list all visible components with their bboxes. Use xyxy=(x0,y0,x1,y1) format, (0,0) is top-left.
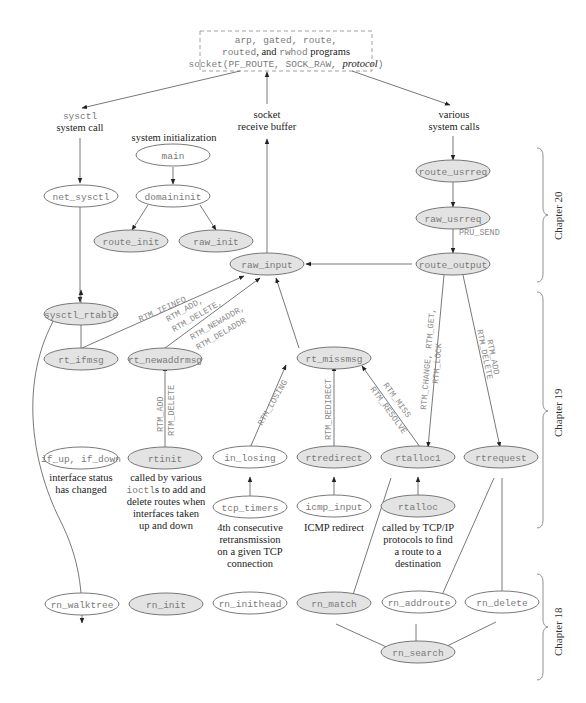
node-label: rn_walktree xyxy=(51,600,114,611)
node-raw-input[interactable]: raw_input xyxy=(230,253,304,275)
node-label: rn_match xyxy=(311,599,357,610)
node-label: icmp_input xyxy=(305,502,362,513)
node-rtalloc[interactable]: rtalloc xyxy=(381,495,455,517)
node-route-output[interactable]: route_output xyxy=(416,253,490,275)
node-label: raw_init xyxy=(193,237,239,248)
socket-call-close: ) xyxy=(378,59,384,70)
chapter-20-brace: Chapter 20 xyxy=(537,148,564,282)
node-tcp-timers[interactable]: tcp_timers xyxy=(213,496,287,518)
rtalloc-note-3: a route to a xyxy=(395,546,442,557)
node-label: rtredirect xyxy=(305,453,362,464)
programs-label: programs xyxy=(308,46,350,57)
node-rn-search[interactable]: rn_search xyxy=(381,641,455,663)
system-call-label: system call xyxy=(57,122,104,133)
node-rtinit[interactable]: rtinit xyxy=(128,447,202,469)
node-label: domaininit xyxy=(144,192,201,203)
system-initialization-label: system initialization xyxy=(132,132,218,143)
node-rn-match[interactable]: rn_match xyxy=(297,592,371,614)
node-sysctl-rtable[interactable]: sysctl_rtable xyxy=(44,303,118,325)
node-label: in_losing xyxy=(224,453,275,464)
node-label: rn_init xyxy=(146,600,186,611)
tcp-note-3: on a given TCP xyxy=(217,546,283,557)
node-main[interactable]: main xyxy=(136,144,210,166)
rtinit-note-5: up and down xyxy=(139,520,194,531)
node-rtredirect[interactable]: rtredirect xyxy=(297,446,371,468)
node-net-sysctl[interactable]: net_sysctl xyxy=(44,185,118,207)
receive-buffer-label: receive buffer xyxy=(238,121,297,132)
system-calls-label: system calls xyxy=(428,121,479,132)
node-route-init[interactable]: route_init xyxy=(94,230,168,252)
node-label: sysctl_rtable xyxy=(44,310,118,321)
node-rn-walktree[interactable]: rn_walktree xyxy=(45,593,119,615)
node-in-losing[interactable]: in_losing xyxy=(213,446,287,468)
has-changed-note: has changed xyxy=(55,484,107,495)
node-rt-missmsg[interactable]: rt_missmsg xyxy=(297,347,371,369)
rtinit-note-1: called by various xyxy=(130,472,202,483)
node-rn-delete[interactable]: rn_delete xyxy=(465,591,539,613)
various-label: various xyxy=(439,109,470,120)
node-label: main xyxy=(162,151,185,162)
node-label: rn_delete xyxy=(476,598,528,609)
node-rn-inithead[interactable]: rn_inithead xyxy=(213,592,287,614)
node-icmp-input[interactable]: icmp_input xyxy=(297,495,371,517)
sysctl-label: sysctl xyxy=(63,111,98,122)
programs-line-1: arp, gated, route, xyxy=(235,35,338,46)
node-label: rt_missmsg xyxy=(305,354,362,365)
socket-call-label: socket(PF_ROUTE, SOCK_RAW, xyxy=(189,59,343,70)
rtinit-rtm-delete-label: RTM_DELETE xyxy=(167,385,177,436)
rtalloc-note-4: destination xyxy=(395,558,442,569)
node-label: rtalloc xyxy=(398,502,438,513)
node-label: if_up, if_down xyxy=(41,454,121,465)
icmp-redirect-note: ICMP redirect xyxy=(304,522,364,533)
ioctl-suffix: s to add and xyxy=(155,484,206,495)
node-rn-addroute[interactable]: rn_addroute xyxy=(382,591,456,613)
node-rn-init[interactable]: rn_init xyxy=(129,593,203,615)
routing-call-graph: arp, gated, route, routed, and rwhod pro… xyxy=(0,0,586,703)
node-rt-newaddrmsg[interactable]: rt_newaddrmsg xyxy=(128,348,202,370)
node-rtalloc1[interactable]: rtalloc1 xyxy=(381,446,455,468)
chapter-18-label: Chapter 18 xyxy=(552,607,564,656)
rtinit-note-3: delete routes when xyxy=(127,496,206,507)
node-if-up-down[interactable]: if_up, if_down xyxy=(41,447,121,469)
chapter-19-label: Chapter 19 xyxy=(552,388,564,437)
tcp-note-1: 4th consecutive xyxy=(217,522,283,533)
node-label: rt_newaddrmsg xyxy=(128,355,202,366)
node-label: rtalloc1 xyxy=(395,453,441,464)
rtalloc-note-2: protocols to find xyxy=(383,534,453,545)
node-label: tcp_timers xyxy=(221,503,278,514)
node-raw-init[interactable]: raw_init xyxy=(179,230,253,252)
rtinit-note-2: ioctls to add and xyxy=(127,484,207,496)
routed-label: routed xyxy=(222,47,256,58)
node-label: route_output xyxy=(419,260,487,271)
chapter-18-brace: Chapter 18 xyxy=(537,574,564,680)
and-label: , and xyxy=(256,46,279,57)
rtm-redirect-label: RTM_REDIRECT xyxy=(324,379,334,440)
tcp-note-4: connection xyxy=(227,558,274,569)
rwhod-label: rwhod xyxy=(279,47,308,58)
tcp-note-2: retransmission xyxy=(219,534,281,545)
protocol-label: protocol xyxy=(342,58,378,69)
rtinit-rtm-add-label: RTM_ADD xyxy=(156,396,166,432)
node-rtrequest[interactable]: rtrequest xyxy=(464,446,538,468)
node-label: rn_addroute xyxy=(388,598,451,609)
chapter-19-brace: Chapter 19 xyxy=(537,292,564,528)
node-label: rt_ifmsg xyxy=(58,355,104,366)
pru-send-label: PRU_SEND xyxy=(459,228,500,238)
rtm-losing-label: RTM_LOSING xyxy=(256,378,290,427)
node-label: raw_usrreq xyxy=(424,214,481,225)
node-label: net_sysctl xyxy=(52,192,109,203)
node-label: rn_inithead xyxy=(219,599,282,610)
socket-label: socket xyxy=(254,109,281,120)
node-raw-usrreq[interactable]: raw_usrreq xyxy=(416,207,490,229)
programs-box: arp, gated, route, routed, and rwhod pro… xyxy=(189,31,384,71)
node-label: raw_input xyxy=(241,260,292,271)
node-label: rn_search xyxy=(392,648,443,659)
rtalloc-note-1: called by TCP/IP xyxy=(382,522,454,533)
node-label: route_usrreq xyxy=(419,167,487,178)
interface-status-note: interface status xyxy=(49,472,112,483)
node-domaininit[interactable]: domaininit xyxy=(136,185,210,207)
chapter-20-label: Chapter 20 xyxy=(552,191,564,240)
node-rt-ifmsg[interactable]: rt_ifmsg xyxy=(44,348,118,370)
node-route-usrreq[interactable]: route_usrreq xyxy=(416,160,490,182)
programs-line-3: socket(PF_ROUTE, SOCK_RAW, protocol) xyxy=(189,58,384,70)
